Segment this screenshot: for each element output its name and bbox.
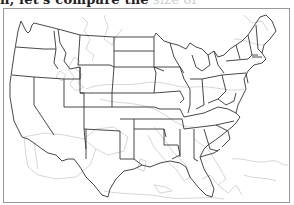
caption-text: n, let's compare the size of bbox=[0, 0, 197, 7]
caption-faded: size of bbox=[149, 0, 197, 7]
us-europe-overlay-map bbox=[4, 9, 291, 204]
caption-visible: n, let's compare the bbox=[0, 0, 149, 7]
map-figure bbox=[3, 8, 290, 203]
